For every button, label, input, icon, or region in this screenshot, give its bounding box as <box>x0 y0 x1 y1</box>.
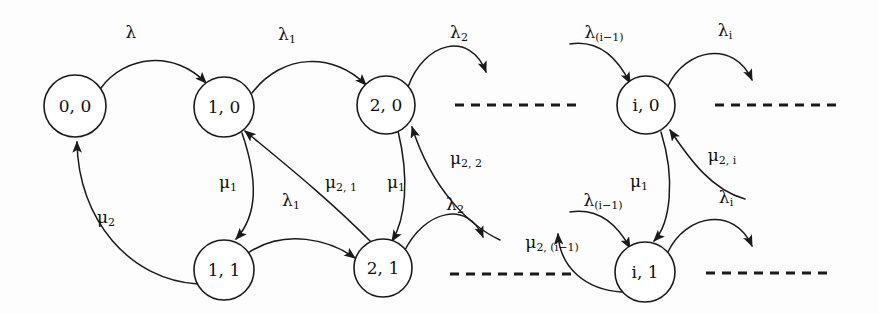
rate-label: λ1 <box>278 24 296 47</box>
transition-arrow <box>404 214 483 252</box>
state-nodes: 0, 01, 02, 0i, 01, 12, 1i, 1 <box>44 75 675 302</box>
node-label: 1, 0 <box>208 97 240 117</box>
node-label: 2, 0 <box>370 95 402 115</box>
rate-label: λi <box>719 187 734 210</box>
state-node-si0[interactable]: i, 0 <box>617 76 675 134</box>
state-node-s20[interactable]: 2, 0 <box>357 76 415 134</box>
state-transition-diagram: 0, 01, 02, 0i, 01, 12, 1i, 1 λμ2μ1λ1λ1μ2… <box>0 0 879 314</box>
rate-label: μ2 <box>97 207 115 230</box>
node-label: 1, 1 <box>208 260 240 280</box>
transition-arrow <box>77 142 198 284</box>
transition-arrow <box>252 62 366 93</box>
transition-arrow <box>236 133 253 239</box>
rate-label: λ(i−1) <box>584 22 623 45</box>
rate-label: μ2, 1 <box>325 172 357 195</box>
state-node-s10[interactable]: 1, 0 <box>194 77 254 137</box>
rate-label: μ2, i <box>708 145 737 168</box>
node-label: i, 1 <box>631 262 658 282</box>
node-label: i, 0 <box>632 95 659 115</box>
transition-arrow <box>412 127 500 240</box>
rate-label: λ <box>126 22 137 42</box>
diagram-canvas: 0, 01, 02, 0i, 01, 12, 1i, 1 λμ2μ1λ1λ1μ2… <box>0 0 879 314</box>
rate-label: λ1 <box>282 190 300 213</box>
transition-arrow <box>668 54 752 86</box>
rate-label: λ2 <box>446 194 464 217</box>
node-label: 2, 1 <box>367 258 399 278</box>
node-label: 0, 0 <box>59 96 91 116</box>
rate-label: μ1 <box>219 172 237 195</box>
state-node-s00[interactable]: 0, 0 <box>44 75 106 137</box>
transition-arrow <box>248 239 355 258</box>
state-node-si1[interactable]: i, 1 <box>615 242 675 302</box>
state-node-s11[interactable]: 1, 1 <box>194 240 254 300</box>
rate-label: λi <box>718 20 733 43</box>
transition-arrow <box>570 43 630 83</box>
rate-label: μ2, (i−1) <box>525 232 578 255</box>
rate-label: μ1 <box>630 171 648 194</box>
rate-label: μ1 <box>387 172 405 195</box>
state-node-s21[interactable]: 2, 1 <box>354 239 412 297</box>
rate-labels: λμ2μ1λ1λ1μ2, 1μ1λ2μ2, 2λ2λ(i−1)λiμ1μ2, i… <box>97 20 737 255</box>
rate-label: λ2 <box>450 22 468 45</box>
transition-arrow <box>668 220 752 252</box>
transition-arrow <box>654 132 670 241</box>
transition-arrow <box>101 61 206 88</box>
rate-label: μ2, 2 <box>450 148 482 171</box>
transition-arrow <box>408 46 486 87</box>
rate-label: λ(i−1) <box>583 190 622 213</box>
transition-arrow <box>570 211 630 248</box>
